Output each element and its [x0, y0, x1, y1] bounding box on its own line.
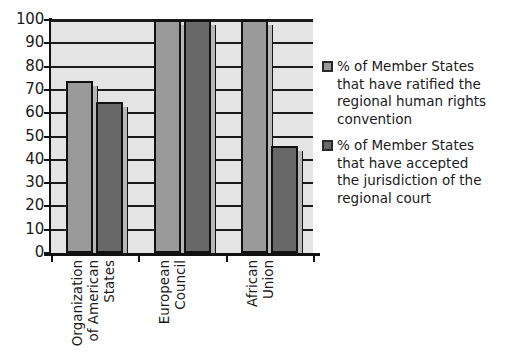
bar: [184, 20, 211, 253]
category-label-line: States: [102, 260, 116, 303]
bar: [66, 81, 93, 253]
category-label-line: Union: [261, 260, 275, 299]
bar: [96, 102, 123, 253]
y-axis-tick-mark: [44, 159, 51, 161]
category-label-group: EuropeanCouncil: [138, 258, 225, 363]
category-label-line: of American: [86, 260, 100, 342]
category-label-line: Organization: [70, 260, 84, 346]
legend-swatch-icon: [322, 140, 333, 151]
bar-shadow: [298, 151, 303, 256]
bar: [271, 146, 298, 253]
y-axis-tick-label: 60: [8, 105, 44, 120]
y-axis-tick-label: 0: [8, 245, 44, 260]
y-axis-tick-label: 90: [8, 35, 44, 50]
y-axis-tick-mark: [44, 112, 51, 114]
y-axis-tick-mark: [44, 89, 51, 91]
y-axis-tick-labels: 1009080706050403020100: [4, 0, 44, 363]
bar-chart: 1009080706050403020100 Organizationof Am…: [0, 0, 511, 363]
y-axis-tick-mark: [44, 205, 51, 207]
y-axis-tick-label: 100: [8, 12, 44, 27]
y-axis-tick-mark: [44, 136, 51, 138]
bar-shadow: [123, 107, 128, 256]
plot-area: [51, 20, 313, 253]
chart-legend: % of Member Statesthat have ratified the…: [322, 58, 511, 216]
category-label-group: Organizationof AmericanStates: [51, 258, 138, 363]
x-axis-tick-mark: [313, 256, 315, 262]
y-axis-tick-label: 30: [8, 175, 44, 190]
bar: [154, 20, 181, 253]
category-label-line: Council: [173, 260, 187, 310]
legend-label: % of Member Statesthat have acceptedthe …: [337, 137, 481, 207]
y-axis-tick-label: 50: [8, 129, 44, 144]
legend-entry[interactable]: % of Member Statesthat have acceptedthe …: [322, 137, 511, 207]
y-axis-tick-label: 20: [8, 198, 44, 213]
y-axis-tick-mark: [44, 66, 51, 68]
y-axis-tick-mark: [44, 229, 51, 231]
bar: [241, 20, 268, 253]
legend-entry[interactable]: % of Member Statesthat have ratified the…: [322, 58, 511, 128]
y-axis-tick-mark: [44, 19, 51, 21]
y-axis-tick-label: 40: [8, 152, 44, 167]
y-axis-tick-mark: [44, 42, 51, 44]
category-label-group: AfricanUnion: [226, 258, 313, 363]
y-axis-tick-label: 70: [8, 82, 44, 97]
x-axis-line: [44, 253, 320, 256]
legend-swatch-icon: [322, 61, 333, 72]
x-axis-category-labels: Organizationof AmericanStatesEuropeanCou…: [51, 258, 313, 363]
bar-shadow: [211, 25, 216, 256]
y-axis-tick-label: 10: [8, 222, 44, 237]
category-label-line: European: [157, 260, 171, 324]
gridline: [51, 19, 313, 22]
y-axis-tick-mark: [44, 252, 51, 254]
legend-label: % of Member Statesthat have ratified the…: [337, 58, 486, 128]
y-axis-tick-mark: [44, 182, 51, 184]
category-label-line: African: [245, 260, 259, 307]
y-axis-tick-label: 80: [8, 59, 44, 74]
